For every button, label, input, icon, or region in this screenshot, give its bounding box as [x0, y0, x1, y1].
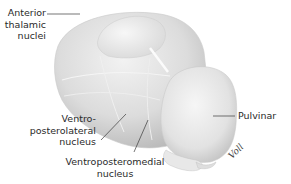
label-line: nucleus [20, 136, 96, 148]
label-pulvinar: Pulvinar [238, 110, 276, 122]
label-ventroposteromedial-nucleus: Ventroposteromedial nucleus [56, 156, 174, 179]
label-ventroposterolateral-nucleus: Ventro- posterolateral nucleus [20, 113, 96, 148]
label-line: Anterior [0, 7, 46, 19]
label-anterior-thalamic-nuclei: Anterior thalamic nuclei [0, 7, 46, 42]
pulvinar-shape [161, 67, 237, 163]
label-line: Ventro- [20, 113, 96, 125]
label-line: nucleus [56, 168, 174, 180]
label-line: thalamic [0, 19, 46, 31]
thalamus-figure: Anterior thalamic nuclei Ventro- postero… [0, 0, 291, 184]
label-line: posterolateral [20, 125, 96, 137]
label-line: nuclei [0, 30, 46, 42]
label-line: Ventroposteromedial [56, 156, 174, 168]
